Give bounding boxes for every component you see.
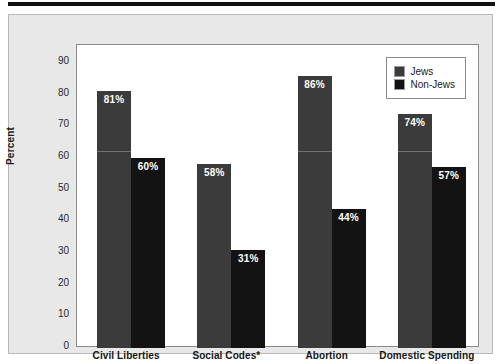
y-axis-title: Percent: [5, 127, 16, 165]
bar: 60%: [131, 158, 165, 348]
x-axis-category-label: Social Codes*: [176, 350, 276, 361]
legend-swatch-icon: [394, 66, 405, 77]
y-axis-tick-label: 20: [31, 276, 69, 287]
y-axis-tick-label: 50: [31, 181, 69, 192]
bar-value-label: 86%: [298, 79, 332, 90]
y-axis-tick-label: 0: [31, 340, 69, 351]
y-axis-ticks: 0102030405060708090: [29, 15, 69, 355]
x-axis-labels: Civil LibertiesSocial Codes*AbortionDome…: [76, 350, 479, 364]
legend-label: Non-Jews: [411, 79, 455, 90]
bar: 31%: [231, 250, 265, 348]
bar-value-label: 44%: [332, 212, 366, 223]
bar-value-label: 58%: [197, 167, 231, 178]
bar-value-label: 74%: [398, 117, 432, 128]
bar: 74%: [398, 114, 432, 348]
x-axis-category-label: Civil Liberties: [76, 350, 176, 361]
chart-figure: Percent 0102030405060708090 81%60%58%31%…: [0, 0, 501, 364]
y-axis-tick-label: 80: [31, 86, 69, 97]
y-axis-tick-label: 70: [31, 118, 69, 129]
y-axis-tick-label: 40: [31, 213, 69, 224]
y-axis-tick-label: 90: [31, 54, 69, 65]
legend-item-jews: Jews: [394, 66, 455, 77]
y-axis-tick-label: 10: [31, 308, 69, 319]
legend-label: Jews: [411, 66, 434, 77]
plot-area: 81%60%58%31%86%44%74%57% Jews Non-Jews: [76, 44, 479, 347]
bar: 81%: [97, 91, 131, 348]
bar-value-label: 57%: [432, 170, 466, 181]
x-axis-category-label: Domestic Spending: [377, 350, 477, 361]
bar: 86%: [298, 76, 332, 348]
legend-swatch-icon: [394, 79, 405, 90]
x-axis-category-label: Abortion: [277, 350, 377, 361]
y-axis-tick-label: 60: [31, 149, 69, 160]
bar-value-label: 81%: [97, 94, 131, 105]
legend: Jews Non-Jews: [386, 57, 466, 99]
bar: 44%: [332, 209, 366, 348]
bar-value-label: 31%: [231, 253, 265, 264]
y-axis-tick-label: 30: [31, 244, 69, 255]
bar: 58%: [197, 164, 231, 348]
figure-panel: Percent 0102030405060708090 81%60%58%31%…: [8, 14, 493, 354]
top-rule-divider: [8, 2, 495, 6]
legend-item-non-jews: Non-Jews: [394, 79, 455, 90]
bar-value-label: 60%: [131, 161, 165, 172]
bar: 57%: [432, 167, 466, 348]
